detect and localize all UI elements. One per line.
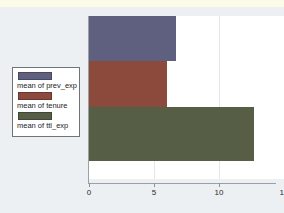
legend-label-prev-exp: mean of prev_exp: [17, 81, 75, 91]
x-tick-mark: [89, 183, 90, 187]
plot-area: [89, 16, 284, 179]
legend-item[interactable]: mean of ttl_exp: [17, 112, 75, 131]
legend-swatch-ttl-exp: [18, 112, 52, 120]
x-tick-mark: [219, 183, 220, 187]
legend-swatch-tenure: [18, 92, 52, 100]
x-tick-mark: [154, 183, 155, 187]
legend-item[interactable]: mean of tenure: [17, 92, 75, 111]
x-tick-label: 15: [280, 188, 284, 198]
x-tick-label: 10: [215, 188, 224, 198]
bar-mean-of-tenure: [89, 61, 167, 107]
legend-label-ttl-exp: mean of ttl_exp: [17, 121, 75, 131]
chart-canvas: 051015 mean of prev_exp mean of tenure m…: [0, 7, 284, 213]
legend-swatch-prev-exp: [18, 72, 52, 80]
top-edge-strip: [0, 0, 284, 7]
bar-mean-of-ttl_exp: [89, 107, 254, 161]
x-tick-label: 5: [152, 188, 156, 198]
legend-label-tenure: mean of tenure: [17, 101, 75, 111]
legend: mean of prev_exp mean of tenure mean of …: [12, 67, 80, 137]
y-axis-line: [88, 16, 89, 183]
x-axis-line: [88, 183, 276, 184]
legend-item[interactable]: mean of prev_exp: [17, 72, 75, 91]
x-tick-label: 0: [87, 188, 91, 198]
bar-mean-of-prev_exp: [89, 16, 176, 61]
